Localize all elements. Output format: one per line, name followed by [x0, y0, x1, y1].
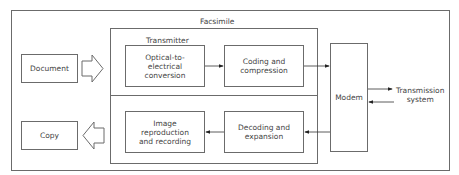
document-input-arrow-icon — [82, 55, 103, 82]
arrows-layer — [0, 0, 459, 175]
copy-output-arrow-icon — [83, 122, 104, 149]
